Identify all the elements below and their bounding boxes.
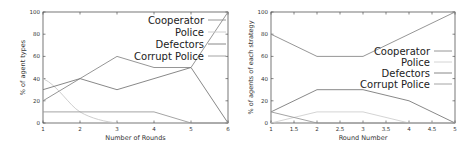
series-line-police (43, 79, 117, 123)
legend-label: Cooperator (374, 46, 431, 57)
x-tick-label: 6 (226, 126, 230, 132)
y-axis-label: % of agents of each strategy (247, 20, 255, 114)
y-tick-label: 100 (30, 9, 41, 15)
x-tick-label: 2 (315, 126, 319, 132)
y-tick-label: 40 (261, 76, 268, 82)
y-tick-label: 0 (265, 120, 269, 126)
x-tick-label: 2.5 (336, 126, 345, 132)
legend-label: Defectors (156, 39, 204, 50)
x-tick-label: 3 (361, 126, 365, 132)
y-tick-label: 40 (33, 76, 40, 82)
x-tick-label: 4.5 (428, 126, 437, 132)
x-tick-label: 4 (407, 126, 411, 132)
x-tick-label: 4 (152, 126, 156, 132)
x-tick-label: 1.5 (290, 126, 299, 132)
legend-label: Police (175, 27, 204, 38)
x-axis-label: Round Number (339, 134, 388, 142)
x-tick-label: 2 (78, 126, 82, 132)
right-chart: 02040608010011.522.533.544.55Round Numbe… (236, 0, 473, 150)
left-chart-plot: 020406080100123456Number of Rounds% of a… (0, 0, 236, 150)
y-tick-label: 80 (33, 31, 40, 37)
y-tick-label: 0 (37, 120, 41, 126)
x-tick-label: 1 (41, 126, 45, 132)
series-line-corrupt-police (43, 112, 228, 123)
right-chart-plot: 02040608010011.522.533.544.55Round Numbe… (236, 0, 473, 150)
x-tick-label: 5 (453, 126, 457, 132)
series-line-defectors (43, 68, 228, 124)
x-tick-label: 3 (115, 126, 119, 132)
legend-label: Cooperator (148, 15, 205, 26)
series-line-defectors (271, 90, 455, 123)
y-tick-label: 100 (258, 9, 269, 15)
x-tick-label: 1 (269, 126, 273, 132)
y-tick-label: 60 (33, 53, 40, 59)
y-tick-label: 20 (33, 98, 40, 104)
x-tick-label: 3.5 (382, 126, 391, 132)
y-tick-label: 60 (261, 53, 268, 59)
left-chart: 020406080100123456Number of Rounds% of a… (0, 0, 236, 150)
y-tick-label: 20 (261, 98, 268, 104)
y-axis-label: % of agent types (19, 39, 27, 95)
x-axis-label: Number of Rounds (105, 134, 166, 142)
legend-label: Defectors (382, 68, 430, 79)
legend-label: Corrupt Police (360, 79, 430, 90)
legend-label: Police (401, 57, 430, 68)
y-tick-label: 80 (261, 31, 268, 37)
legend-label: Corrupt Police (134, 51, 204, 62)
x-tick-label: 5 (189, 126, 193, 132)
